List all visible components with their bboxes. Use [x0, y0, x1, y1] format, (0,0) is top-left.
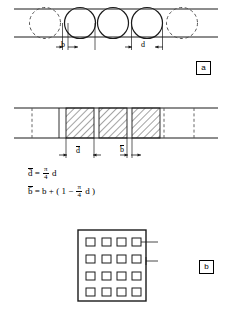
dimension-d-bar: [59, 153, 101, 156]
filament-square-r1-c2: [117, 255, 126, 263]
filament-square-r3-c2: [117, 288, 126, 296]
panel-a: b d a: [0, 0, 231, 90]
dimension-label-b: b: [61, 41, 65, 49]
formula-2-operator: +: [49, 186, 54, 196]
panel-c: Supperconductor Matrix c: [0, 205, 231, 330]
squared-filament-1: [66, 108, 94, 138]
filament-square-r0-c2: [117, 238, 126, 246]
formula-b-bar: b̄ = b + ( 1 − π 4 d ): [28, 184, 95, 200]
filament-square-r1-c3: [132, 255, 141, 263]
formula-1-lhs: d̄: [28, 168, 33, 178]
panel-tag-a: a: [196, 61, 211, 75]
panel-c-drawing: [0, 205, 231, 330]
formula-2-lhs: b̄: [28, 186, 33, 196]
formula-2-paren-open: (: [56, 186, 59, 196]
filament-square-r2-c0: [86, 272, 95, 280]
filament-square-r2-c1: [102, 272, 111, 280]
filament-square-r2-c3: [132, 272, 141, 280]
filament-square-r3-c0: [86, 288, 95, 296]
formula-d-bar: d̄ = π 4 d: [28, 166, 56, 182]
filament-circle-1: [65, 8, 96, 39]
formula-1-denominator: 4: [43, 174, 49, 181]
filament-circle-2: [98, 8, 129, 39]
filament-square-r1-c0: [86, 255, 95, 263]
dimension-label-b-bar-text: b: [120, 145, 124, 154]
formula-1-variable: d: [52, 168, 57, 178]
filament-square-r1-c1: [102, 255, 111, 263]
matrix-boundary: [78, 230, 146, 301]
panel-a-drawing: [0, 0, 231, 90]
formula-2-paren-close: ): [92, 186, 95, 196]
filament-square-r3-c1: [102, 288, 111, 296]
dimension-label-d: d: [141, 41, 145, 49]
formula-2-minus: −: [68, 186, 73, 196]
figure-root: b d a: [0, 0, 231, 330]
formula-1-relation: =: [35, 168, 40, 178]
filament-square-r2-c2: [117, 272, 126, 280]
squared-filament-2: [99, 108, 127, 138]
filament-grid: [86, 238, 141, 296]
filament-square-r0-c0: [86, 238, 95, 246]
squared-filament-3: [132, 108, 160, 138]
formula-2-one: 1: [61, 186, 66, 196]
filament-square-r0-c3: [132, 238, 141, 246]
filament-circle-dashed-right: [167, 8, 198, 39]
dimension-label-d-bar: d: [76, 146, 80, 155]
dimension-b: [56, 45, 78, 48]
formula-2-fraction: π 4: [76, 184, 82, 200]
filament-circle-dashed-left: [30, 8, 61, 39]
dimension-label-d-bar-text: d: [76, 146, 80, 155]
filament-square-r3-c3: [132, 288, 141, 296]
formula-2-leading-variable: b: [42, 186, 47, 196]
filament-circle-3: [132, 8, 163, 39]
filament-square-r0-c1: [102, 238, 111, 246]
formula-2-relation: =: [35, 186, 40, 196]
dimension-label-b-bar: b: [120, 145, 124, 154]
formula-2-denominator: 4: [76, 192, 82, 199]
formula-1-fraction: π 4: [43, 166, 49, 182]
formula-2-variable: d: [85, 186, 90, 196]
